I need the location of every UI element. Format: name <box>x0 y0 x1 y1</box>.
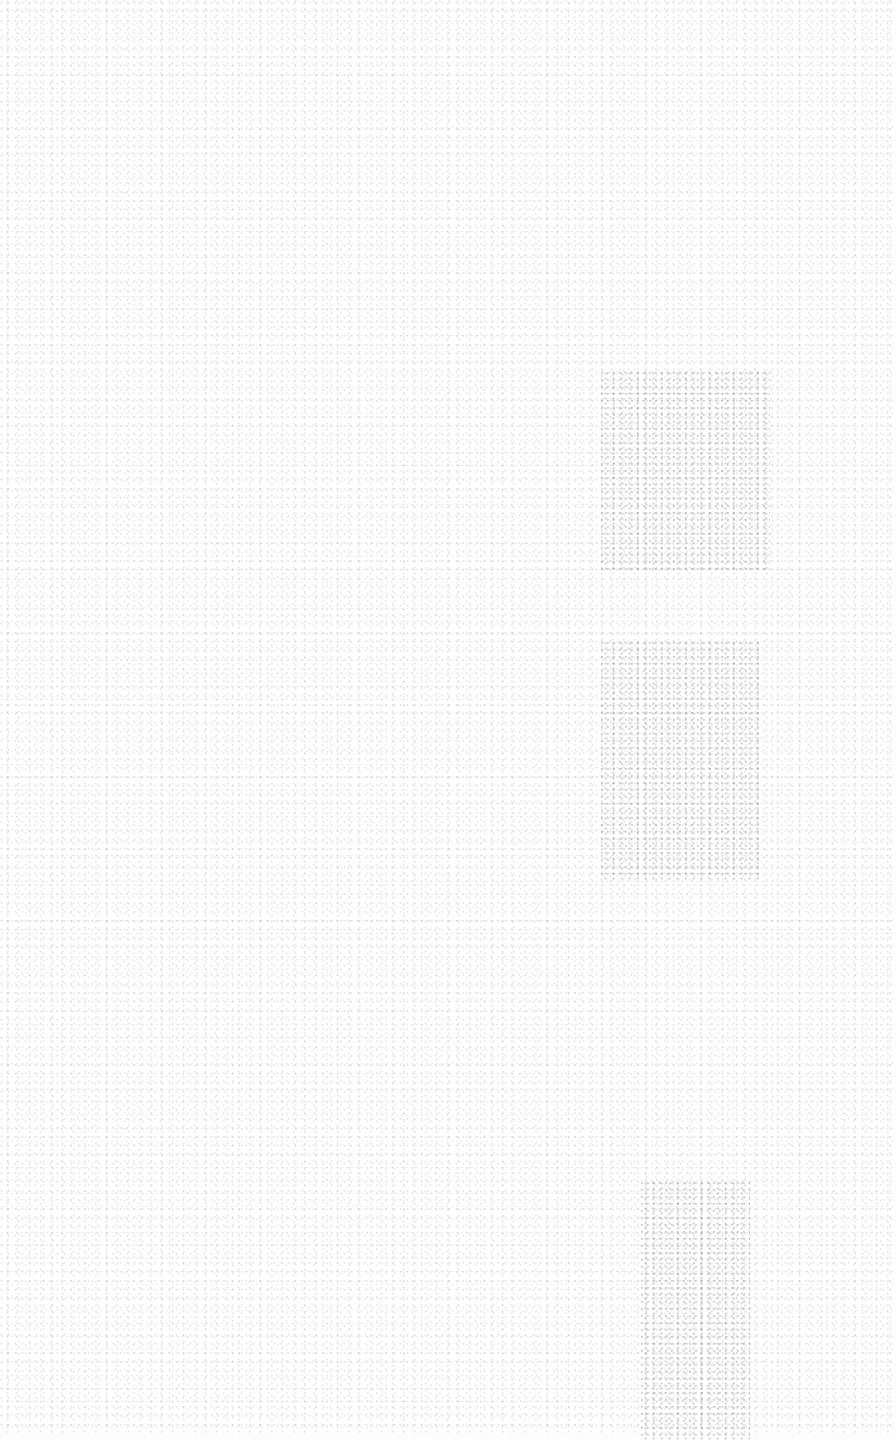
speckle-patch-3 <box>640 1180 750 1440</box>
speckle-patch-2 <box>600 640 760 880</box>
speckle-patch-1 <box>600 370 770 570</box>
